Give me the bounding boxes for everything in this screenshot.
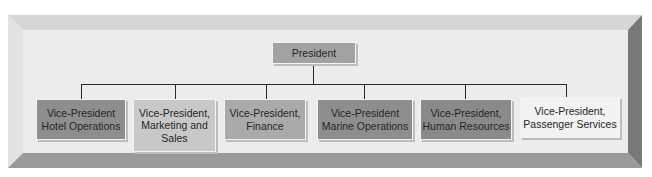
stem-marketing-sales: [175, 84, 176, 99]
node-vp-finance: Vice-President, Finance: [224, 99, 306, 140]
node-vp-marine-operations: Vice-President Marine Operations: [317, 99, 413, 140]
stem-human-resources: [465, 84, 466, 99]
node-vp-marketing-sales: Vice-President, Marketing and Sales: [133, 99, 216, 152]
node-label: Vice-President, Human Resources: [422, 107, 510, 132]
stem-finance: [266, 84, 267, 99]
node-label: Vice-President, Passenger Services: [522, 105, 618, 130]
stem-marine-operations: [364, 84, 365, 99]
node-label: Vice-President, Marketing and Sales: [139, 107, 211, 145]
node-label: President: [292, 47, 336, 60]
stem-passenger-services: [566, 84, 567, 97]
president-stem: [313, 64, 314, 84]
node-vp-passenger-services: Vice-President, Passenger Services: [520, 97, 620, 138]
node-president: President: [272, 42, 356, 64]
beveled-frame: [8, 15, 642, 168]
stem-hotel-operations: [81, 84, 82, 99]
node-vp-human-resources: Vice-President, Human Resources: [420, 99, 512, 140]
horizontal-connector: [81, 84, 567, 85]
node-label: Vice-President Marine Operations: [319, 107, 411, 132]
node-label: Vice-President, Finance: [227, 107, 303, 132]
node-label: Vice-President Hotel Operations: [39, 107, 123, 132]
node-vp-hotel-operations: Vice-President Hotel Operations: [36, 99, 126, 140]
